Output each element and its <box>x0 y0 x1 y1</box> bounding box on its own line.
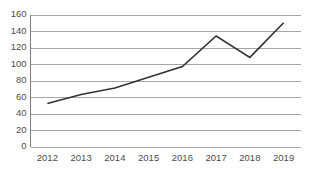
y-axis-tick-label: 160 <box>11 8 27 19</box>
x-axis-tick-label: 2013 <box>71 152 92 163</box>
x-axis-tick-label: 2016 <box>172 152 193 163</box>
x-axis-tick-label: 2017 <box>206 152 227 163</box>
x-axis-tick-label: 2019 <box>273 152 294 163</box>
y-axis-tick-label: 20 <box>16 124 27 135</box>
x-axis-tick-label: 2012 <box>37 152 58 163</box>
line-chart: 020406080100120140160 201220132014201520… <box>0 0 309 169</box>
x-axis-tick-label: 2014 <box>104 152 125 163</box>
y-axis-tick-label: 80 <box>16 74 27 85</box>
y-axis-tick-label: 0 <box>21 140 26 151</box>
y-axis-tick-label: 100 <box>11 58 27 69</box>
y-axis-tick-label: 60 <box>16 91 27 102</box>
x-axis-tick-labels: 20122013201420152016201720182019 <box>37 152 294 163</box>
x-axis-tick-label: 2015 <box>138 152 159 163</box>
y-axis-tick-label: 140 <box>11 25 27 36</box>
y-axis-tick-label: 40 <box>16 107 27 118</box>
series-line-path <box>47 23 283 104</box>
y-axis-tick-label: 120 <box>11 41 27 52</box>
x-axis-tick-label: 2018 <box>239 152 260 163</box>
gridlines-group <box>31 16 301 148</box>
data-series-group <box>47 23 283 104</box>
y-axis-tick-labels: 020406080100120140160 <box>11 8 27 151</box>
chart-canvas: 020406080100120140160 201220132014201520… <box>0 0 309 169</box>
